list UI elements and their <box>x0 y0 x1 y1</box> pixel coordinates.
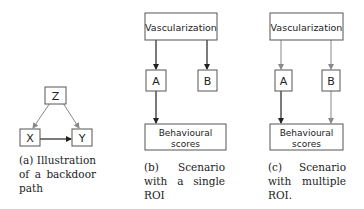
node-x-label: X <box>26 132 34 145</box>
caption-a: (a) Illustration of a backdoor path <box>19 153 96 195</box>
node-behavioural-label-1: Behavioural <box>280 128 334 138</box>
caption-b: (b) Scenario with a single ROI <box>144 160 225 202</box>
node-b-label: B <box>204 75 212 88</box>
node-a-label: A <box>280 75 288 88</box>
node-a-label: A <box>152 75 160 88</box>
edge-z-x <box>33 103 50 128</box>
panel-b-graph: Vascularization A B Behavioural scores <box>145 13 226 150</box>
edge-z-y <box>63 103 79 128</box>
node-behavioural-label-2: scores <box>292 139 321 149</box>
panel-c-graph: Vascularization A B Behavioural scores <box>270 13 343 150</box>
caption-c: (c) Scenario with multiple ROI. <box>268 160 346 202</box>
panel-a-graph: Z X Y <box>20 87 92 146</box>
node-vascularization-label: Vascularization <box>145 22 217 33</box>
node-z-label: Z <box>52 90 60 103</box>
node-behavioural-label-2: scores <box>171 139 200 149</box>
node-b-label: B <box>327 75 335 88</box>
node-behavioural-label-1: Behavioural <box>159 128 213 138</box>
node-y-label: Y <box>78 132 86 145</box>
node-vascularization-label: Vascularization <box>271 22 343 33</box>
